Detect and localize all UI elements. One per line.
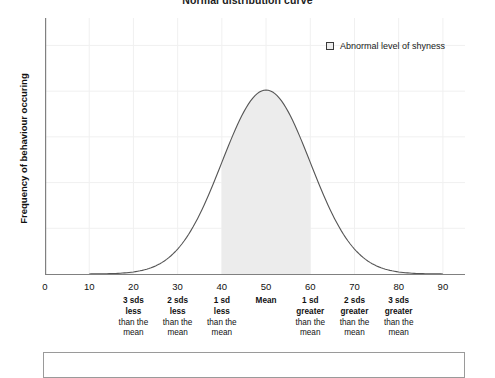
x-tick-80: 80 (379, 281, 419, 292)
bottom-panel (43, 352, 465, 378)
x-axis-tick-labels: 0102030405060708090 (0, 281, 495, 295)
sd-annotation-sub: less (195, 307, 249, 318)
y-axis-title: Frequency of behaviour occuring (18, 49, 29, 249)
x-tick-90: 90 (423, 281, 463, 292)
sd-annotation-labels: 3 sdslessthan themean2 sdslessthan theme… (0, 296, 495, 344)
legend-label-abnormal-shyness: Abnormal level of shyness (340, 41, 445, 51)
plot-area (45, 18, 465, 276)
sd-annotation-tail-1: than the (372, 318, 426, 329)
shaded-regions (89, 90, 443, 274)
x-tick-30: 30 (158, 281, 198, 292)
x-tick-20: 20 (113, 281, 153, 292)
sd-annotation-80: 3 sdsgreaterthan themean (372, 296, 426, 339)
sd-annotation-tail-2: mean (195, 328, 249, 339)
chart-title: Normal distribution curve (0, 0, 495, 6)
x-tick-70: 70 (334, 281, 374, 292)
sd-annotation-tail-2: mean (372, 328, 426, 339)
x-tick-0: 0 (25, 281, 65, 292)
x-tick-50: 50 (246, 281, 286, 292)
legend-swatch-icon (326, 42, 334, 50)
sd-annotation-sub: greater (372, 307, 426, 318)
x-tick-10: 10 (69, 281, 109, 292)
central-shade (222, 90, 310, 274)
plot-svg (45, 18, 465, 276)
sd-annotation-tail-1: than the (195, 318, 249, 329)
sd-annotation-head: 3 sds (372, 296, 426, 307)
chart-legend: Abnormal level of shyness (326, 41, 445, 51)
x-tick-60: 60 (290, 281, 330, 292)
x-tick-40: 40 (202, 281, 242, 292)
